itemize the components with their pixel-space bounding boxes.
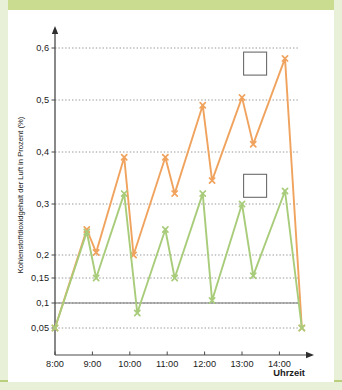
series-line-1	[55, 191, 302, 328]
axes	[52, 26, 314, 358]
x-tick-label-9-00: 9:00	[83, 359, 101, 369]
x-tick-labels: 8:009:0010:0011:0012:0013:0014:00	[46, 352, 291, 369]
frame-right-band	[334, 0, 342, 390]
y-tick-label-0-6: 0,6	[36, 43, 49, 53]
x-axis-arrow	[306, 352, 314, 358]
line-chart: 0,050,10,150,20,30,40,50,6 8:009:0010:00…	[8, 10, 334, 382]
x-axis-title: Uhrzeit	[273, 367, 305, 378]
y-axis-arrow	[52, 26, 58, 34]
x-tick-label-11-00: 11:00	[156, 359, 178, 369]
y-tick-label-0-1: 0,1	[36, 298, 49, 308]
y-tick-label-0-2: 0,2	[36, 250, 49, 260]
x-tick-label-10-00: 10:00	[118, 359, 141, 369]
figure-page: 0,050,10,150,20,30,40,50,6 8:009:0010:00…	[0, 0, 342, 390]
y-tick-label-0-5: 0,5	[36, 95, 49, 105]
y-tick-label-0-3: 0,3	[36, 199, 49, 209]
x-tick-label-8-00: 8:00	[46, 359, 64, 369]
frame-left-band	[0, 0, 8, 390]
y-tick-label-0-05: 0,05	[31, 323, 49, 333]
legend-box-upper[interactable]	[244, 52, 267, 75]
frame-top-band	[0, 0, 342, 10]
legend-boxes	[244, 52, 267, 197]
chart-plate: 0,050,10,150,20,30,40,50,6 8:009:0010:00…	[8, 10, 334, 382]
frame-bottom-band	[0, 382, 342, 390]
y-tick-labels: 0,050,10,150,20,30,40,50,6	[31, 43, 55, 333]
x-tick-label-12-00: 12:00	[193, 359, 216, 369]
y-axis-title: Kohlenstoffdioxidgehalt der Luft in Proz…	[16, 116, 25, 273]
legend-box-lower[interactable]	[244, 174, 267, 197]
axis-titles: Kohlenstoffdioxidgehalt der Luft in Proz…	[16, 116, 305, 378]
y-tick-label-0-15: 0,15	[31, 273, 49, 283]
x-tick-label-13-00: 13:00	[231, 359, 254, 369]
chart-canvas: 0,050,10,150,20,30,40,50,6 8:009:0010:00…	[8, 10, 334, 382]
y-tick-label-0-4: 0,4	[36, 147, 49, 157]
